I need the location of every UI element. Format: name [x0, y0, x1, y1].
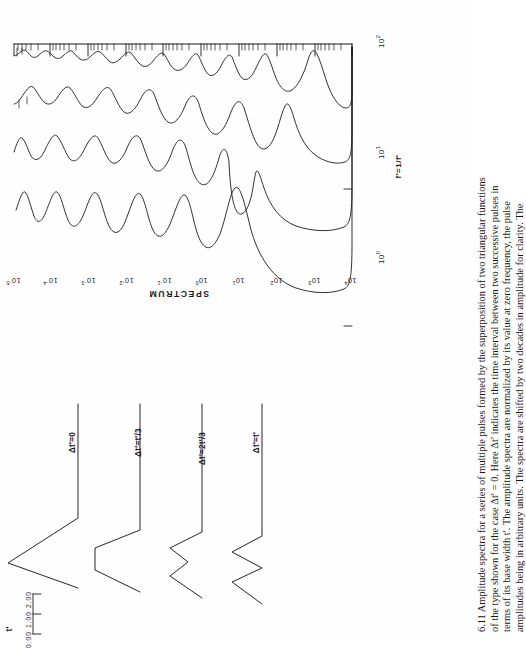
pulse-xaxis-title: t′	[4, 627, 14, 632]
spectrum-xtick-label-0: 100	[375, 251, 386, 265]
pulse-axis-ruler	[33, 594, 41, 634]
spectrum-ytick-exp-3: -2	[119, 280, 125, 286]
spectrum-ytick-label-2: 10-3	[81, 276, 96, 286]
spectrum-axis-title: SPECTRUM	[148, 289, 209, 299]
figure-caption: 6.11 Amplitude spectra for a series of m…	[476, 0, 526, 638]
pulse-xtick-label-0: 0.00	[25, 631, 32, 648]
spectrum-ytick-label-9: 104	[344, 276, 356, 286]
spectrum-xtick-label-2: 102	[375, 35, 386, 49]
spectrum-ytick-exp-2: -3	[81, 280, 87, 286]
spectrum-xtick-label-1: 101	[375, 146, 386, 160]
spectrum-xtick-exp-1: 1	[375, 146, 381, 150]
spectrum-ytick-label-3: 10-2	[119, 276, 134, 286]
spectrum-ytick-exp-1: -4	[43, 280, 49, 286]
pulse-plot	[0, 370, 300, 638]
spectrum-xaxis-title: f′=1/f′	[394, 154, 403, 178]
spectrum-ytick-exp-6: 1	[232, 280, 235, 286]
pulse-trace-label-3: Δt′=t′	[252, 432, 261, 453]
spectrum-ytick-label-4: 10-1	[157, 276, 172, 286]
spectrum-ytick-label-5: 100	[195, 276, 207, 286]
spectrum-xtick-exp-2: 2	[375, 35, 381, 39]
caption-line-2: terms of its base width t′. The amplitud…	[501, 12, 514, 632]
pulse-trace-label-1: Δt′=t′/3	[134, 428, 143, 456]
spectrum-curve-dt0	[16, 47, 352, 293]
spectrum-ytick-label-1: 10-4	[43, 276, 58, 286]
pulse-trace-label-2: Δt′=2t′/3	[198, 432, 207, 465]
caption-line-3: amplitudes being in arbitrary units. The…	[514, 12, 526, 632]
spectrum-ytick-label-7: 102	[270, 276, 282, 286]
caption-line-0: 6.11 Amplitude spectra for a series of m…	[476, 12, 489, 632]
spectrum-ytick-exp-0: -5	[6, 280, 12, 286]
spectrum-ytick-exp-4: -1	[157, 280, 163, 286]
pulse-xtick-label-2: 2.00	[25, 591, 32, 608]
spectrum-curve-dt13	[14, 47, 352, 231]
pulse-xtick-label-1: 1.00	[25, 611, 32, 628]
spectrum-curve-dt23	[14, 47, 352, 163]
spectrum-ytick-exp-7: 2	[270, 280, 273, 286]
caption-line-1: of the type shown for the case Δt′ = 0. …	[489, 12, 502, 632]
spectrum-xtick-exp-0: 0	[375, 251, 381, 255]
spectrum-ytick-label-8: 103	[308, 276, 320, 286]
spectrum-minor-ticks	[18, 44, 341, 50]
spectrum-ytick-exp-5: 0	[195, 280, 198, 286]
spectrum-ytick-label-0: 10-5	[6, 276, 21, 286]
spectrum-curve-dt1	[14, 47, 352, 108]
spectrum-ytick-exp-8: 3	[308, 280, 311, 286]
spectrum-ytick-label-6: 101	[232, 276, 244, 286]
pulse-plot-canvas	[0, 370, 300, 638]
pulse-trace-label-0: Δt′=0	[68, 432, 77, 453]
spectrum-highfreq-nulls	[17, 48, 27, 108]
spectrum-ytick-exp-9: 4	[344, 280, 347, 286]
